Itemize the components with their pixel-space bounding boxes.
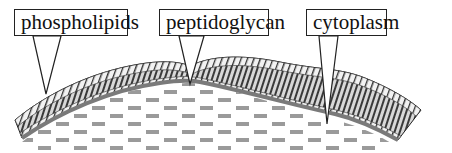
pointer-phospholipids [33,36,61,94]
label-cytoplasm: cytoplasm [306,9,387,36]
cell-wall-diagram: phospholipids peptidoglycan cytoplasm [0,0,452,153]
label-phospholipids: phospholipids [14,9,128,36]
label-peptidoglycan: peptidoglycan [159,9,269,36]
